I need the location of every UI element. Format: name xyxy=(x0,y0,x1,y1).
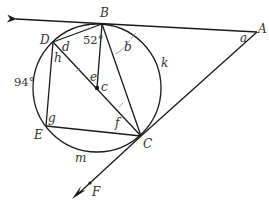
ray-CF xyxy=(78,136,141,194)
center-point xyxy=(95,86,99,90)
label-b: b xyxy=(124,40,132,54)
geometry-diagram: B A a D d 52° b h k e c 94° g f E C m F xyxy=(0,0,269,202)
label-k: k xyxy=(161,56,168,70)
label-g: g xyxy=(48,111,56,125)
tangent-line-AC xyxy=(141,32,257,136)
chord-BC xyxy=(102,24,141,136)
label-B: B xyxy=(99,6,109,20)
label-E: E xyxy=(33,128,43,142)
label-h: h xyxy=(54,51,62,65)
label-f: f xyxy=(114,116,122,130)
label-52-degrees: 52° xyxy=(83,33,103,47)
label-m: m xyxy=(75,151,86,165)
label-d: d xyxy=(62,40,70,54)
label-C: C xyxy=(143,137,152,151)
label-94-degrees: 94° xyxy=(14,75,34,89)
label-F: F xyxy=(91,185,101,199)
tangent-line-AB xyxy=(16,19,257,32)
label-e: e xyxy=(90,70,97,84)
label-a: a xyxy=(240,31,247,45)
label-D: D xyxy=(39,33,50,47)
label-A: A xyxy=(257,22,267,36)
label-c: c xyxy=(101,80,108,94)
chord-EC xyxy=(46,126,141,136)
tick-fC xyxy=(119,103,123,107)
